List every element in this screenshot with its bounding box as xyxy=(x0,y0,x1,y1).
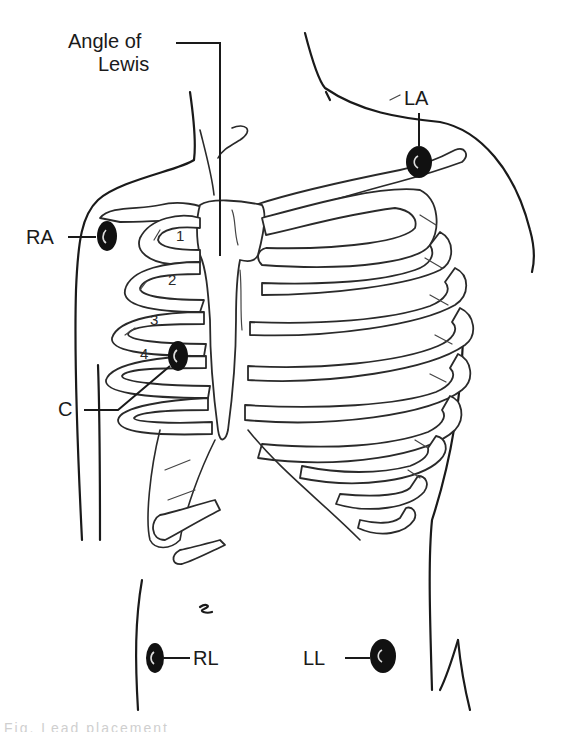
label-la: LA xyxy=(404,87,428,109)
electrode-la xyxy=(406,113,432,178)
rib-number-4: 4 xyxy=(140,346,148,362)
rib-number-3: 3 xyxy=(150,312,158,328)
rib-number-2: 2 xyxy=(168,272,176,288)
rib-number-1: 1 xyxy=(176,228,184,244)
label-angle-of-lewis-line1: Angle of xyxy=(68,30,141,52)
label-angle-of-lewis-line2: Lewis xyxy=(98,53,149,75)
electrode-ra xyxy=(68,221,117,251)
figure-caption: Fig. Lead placement xyxy=(4,718,557,732)
electrode-rl xyxy=(146,643,190,673)
label-rl: RL xyxy=(193,647,219,669)
navel-mark xyxy=(200,605,212,613)
label-c: C xyxy=(58,398,72,420)
electrode-ll xyxy=(345,639,396,673)
label-ll: LL xyxy=(303,647,325,669)
chest-diagram xyxy=(0,0,561,732)
label-ra: RA xyxy=(26,226,54,248)
